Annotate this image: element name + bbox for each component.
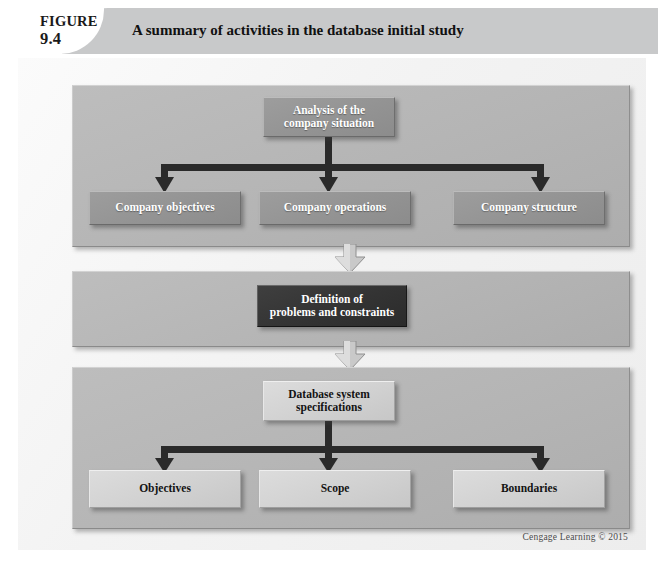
node-analysis-line1: Analysis of the bbox=[279, 104, 379, 118]
figure-plate: Analysis of the company situation Compan… bbox=[18, 58, 646, 550]
node-definition-of-problems-and-constraints: Definition of problems and constraints bbox=[257, 285, 407, 327]
node-database-system-specifications: Database system specifications bbox=[263, 381, 395, 421]
node-definition-line2: problems and constraints bbox=[265, 306, 399, 320]
company-analysis-panel: Analysis of the company situation Compan… bbox=[72, 85, 630, 247]
figure-container: FIGURE 9.4 A summary of activities in th… bbox=[0, 0, 658, 566]
node-boundaries: Boundaries bbox=[453, 470, 605, 508]
figure-caption: A summary of activities in the database … bbox=[132, 22, 464, 39]
node-objectives: Objectives bbox=[89, 470, 241, 508]
node-analysis-of-company-situation: Analysis of the company situation bbox=[263, 97, 395, 137]
node-company-objectives: Company objectives bbox=[89, 191, 241, 225]
node-specs-line2: specifications bbox=[283, 401, 374, 415]
node-scope: Scope bbox=[259, 470, 411, 508]
node-objectives-label: Objectives bbox=[134, 482, 196, 496]
node-company-objectives-label: Company objectives bbox=[110, 201, 219, 215]
node-boundaries-label: Boundaries bbox=[496, 482, 562, 496]
node-specs-line1: Database system bbox=[283, 388, 374, 402]
figure-label-word: FIGURE bbox=[40, 13, 98, 29]
problem-definition-panel: Definition of problems and constraints bbox=[72, 271, 630, 347]
figure-label: FIGURE 9.4 bbox=[40, 13, 110, 47]
node-scope-label: Scope bbox=[316, 482, 355, 496]
node-analysis-line2: company situation bbox=[279, 117, 379, 131]
database-specifications-panel: Database system specifications Objective… bbox=[72, 367, 630, 529]
node-definition-line1: Definition of bbox=[265, 293, 399, 307]
figure-number: 9.4 bbox=[40, 30, 110, 47]
flow-arrow-down-1 bbox=[333, 244, 367, 274]
node-company-structure-label: Company structure bbox=[476, 201, 582, 215]
node-company-operations: Company operations bbox=[259, 191, 411, 225]
copyright-credit: Cengage Learning © 2015 bbox=[523, 532, 628, 542]
node-company-structure: Company structure bbox=[453, 191, 605, 225]
figure-header: FIGURE 9.4 A summary of activities in th… bbox=[0, 8, 658, 54]
node-company-operations-label: Company operations bbox=[279, 201, 392, 215]
